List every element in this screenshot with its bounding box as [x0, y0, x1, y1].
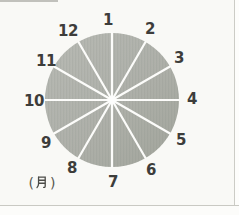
- month-label-7: 7: [108, 175, 118, 190]
- month-label-5: 5: [176, 133, 186, 148]
- month-label-9: 9: [41, 136, 51, 151]
- month-label-6: 6: [146, 163, 156, 178]
- unit-close-paren: ): [50, 175, 55, 189]
- month-label-10: 10: [24, 94, 44, 109]
- unit-open-paren: (: [29, 175, 34, 189]
- month-label-4: 4: [187, 92, 197, 107]
- month-label-3: 3: [174, 51, 184, 66]
- page: 1 2 3 4 5 6 7 8 9 10 11 12 ( ): [0, 0, 239, 215]
- month-label-8: 8: [67, 161, 77, 176]
- month-label-2: 2: [145, 22, 155, 37]
- month-label-1: 1: [103, 13, 113, 28]
- month-label-12: 12: [58, 24, 78, 39]
- month-kanji-glyph: [35, 175, 49, 190]
- month-circle-figure: 1 2 3 4 5 6 7 8 9 10 11 12 ( ): [0, 0, 239, 215]
- center-dot: [109, 97, 116, 104]
- unit-label: ( ): [29, 175, 56, 190]
- month-label-11: 11: [36, 54, 56, 69]
